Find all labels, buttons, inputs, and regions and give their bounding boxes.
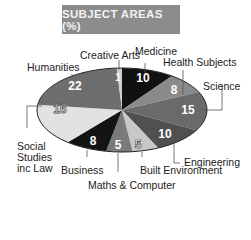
svg-text:10: 10: [136, 71, 150, 85]
svg-text:1: 1: [115, 72, 121, 83]
svg-text:5: 5: [115, 138, 122, 152]
svg-text:10: 10: [158, 127, 172, 141]
svg-text:5: 5: [135, 138, 142, 152]
label-built-environment: Built Environment: [140, 165, 222, 176]
svg-text:16: 16: [53, 102, 67, 116]
svg-text:8: 8: [90, 134, 97, 148]
svg-text:8: 8: [171, 83, 178, 97]
svg-text:15: 15: [181, 103, 195, 117]
label-health-subjects: Health Subjects: [163, 57, 237, 68]
label-maths-computer: Maths & Computer: [88, 180, 176, 191]
label-humanities: Humanities: [27, 62, 80, 73]
svg-text:22: 22: [68, 79, 82, 93]
label-science: Science: [203, 81, 240, 92]
label-social-3: inc Law: [17, 163, 53, 174]
label-business: Business: [61, 165, 104, 176]
label-creative-arts: Creative Arts: [80, 50, 140, 61]
